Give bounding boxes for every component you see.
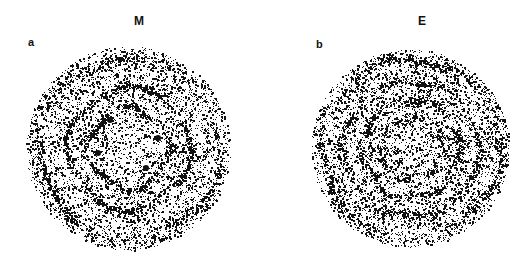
panel-a-dot-plot bbox=[8, 26, 248, 256]
panel-b-dot-plot bbox=[290, 26, 527, 256]
